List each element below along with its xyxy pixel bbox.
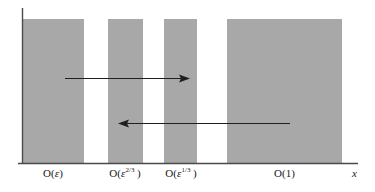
region-bar-epsilon-one-third — [164, 19, 197, 163]
region-bars — [22, 19, 342, 163]
tick-label-region-epsilon: O(ε) — [22, 168, 84, 179]
figure-canvas — [0, 0, 375, 192]
scaling-regions-figure: O(ε) O(ε2/3 ) O(ε1/3 ) O(1) x — [0, 0, 375, 192]
x-axis-label: x — [352, 168, 357, 179]
region-bar-epsilon — [22, 19, 84, 163]
region-bar-one — [227, 19, 342, 163]
tick-label-region-epsilon-one-third: O(ε1/3 ) — [156, 168, 206, 179]
tick-label-region-one: O(1) — [227, 168, 342, 179]
tick-label-region-epsilon-two-thirds: O(ε2/3 ) — [100, 168, 150, 179]
region-bar-epsilon-two-thirds — [108, 19, 143, 163]
